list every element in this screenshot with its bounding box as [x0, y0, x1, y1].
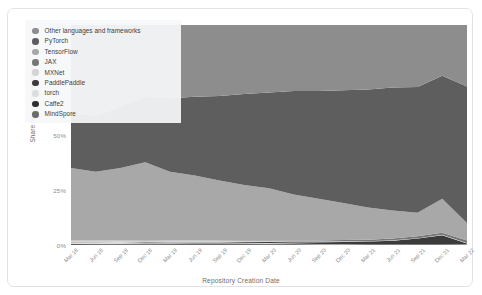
legend-item[interactable]: Other languages and frameworks	[32, 26, 174, 36]
legend-item[interactable]: PyTorch	[32, 36, 174, 46]
x-axis-tick-label: Sep 21	[400, 247, 425, 272]
x-axis-tick-label: Sep 19	[202, 247, 227, 272]
legend-item[interactable]: PaddlePaddle	[32, 78, 174, 88]
x-axis-tick-label: Jun 19	[178, 247, 203, 272]
x-axis-tick-label: Mar 22	[450, 247, 475, 272]
x-axis-tick-label: Dec 18	[128, 247, 153, 272]
legend-swatch-icon	[32, 28, 39, 35]
x-axis-title: Repository Creation Date	[8, 277, 474, 284]
legend-item[interactable]: MXNet	[32, 68, 174, 78]
legend-label: Other languages and frameworks	[45, 28, 141, 34]
y-axis-tick-label: 50%	[32, 132, 66, 139]
legend-swatch-icon	[32, 90, 39, 97]
chart-card: 0%25%50%75%100% Share of implementations…	[7, 8, 473, 287]
legend-item[interactable]: Caffe2	[32, 99, 174, 109]
legend-label: TensorFlow	[45, 49, 78, 55]
x-axis-tick-label: Dec 21	[425, 247, 450, 272]
y-axis-tick-label: 0%	[32, 242, 66, 249]
legend-label: MindSpore	[45, 111, 76, 117]
legend-swatch-icon	[32, 38, 39, 45]
x-axis-tick-label: Sep 18	[103, 247, 128, 272]
legend-item[interactable]: JAX	[32, 57, 174, 67]
legend-swatch-icon	[32, 101, 39, 108]
x-axis-tick-label: Jun 21	[376, 247, 401, 272]
legend-label: MXNet	[45, 70, 65, 76]
x-axis-tick-label: Dec 19	[227, 247, 252, 272]
x-axis-tick-label: Mar 21	[351, 247, 376, 272]
x-axis-tick-label: Jun 18	[79, 247, 104, 272]
legend-item[interactable]: TensorFlow	[32, 47, 174, 57]
legend-label: Caffe2	[45, 101, 64, 107]
x-axis-tick-label: Sep 20	[301, 247, 326, 272]
x-axis-tick-label: Mar 19	[153, 247, 178, 272]
legend-swatch-icon	[32, 69, 39, 76]
legend-swatch-icon	[32, 80, 39, 87]
x-axis-tick-label: Dec 20	[326, 247, 351, 272]
x-axis: Mar 18Jun 18Sep 18Dec 18Mar 19Jun 19Sep …	[71, 247, 467, 281]
y-axis-tick-label: 25%	[32, 187, 66, 194]
x-axis-tick-label: Jun 20	[277, 247, 302, 272]
legend-label: JAX	[45, 59, 57, 65]
legend: Other languages and frameworksPyTorchTen…	[25, 20, 181, 123]
x-axis-tick-label: Mar 20	[252, 247, 277, 272]
legend-label: torch	[45, 90, 59, 96]
legend-label: PyTorch	[45, 38, 68, 44]
legend-item[interactable]: MindSpore	[32, 109, 174, 119]
legend-swatch-icon	[32, 111, 39, 118]
legend-label: PaddlePaddle	[45, 80, 85, 86]
legend-item[interactable]: torch	[32, 88, 174, 98]
legend-swatch-icon	[32, 59, 39, 66]
legend-swatch-icon	[32, 49, 39, 56]
